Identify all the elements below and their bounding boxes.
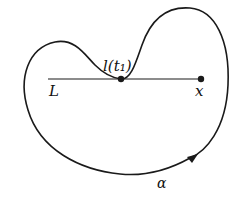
endpoint-label: x (195, 84, 203, 99)
line-label: L (49, 84, 59, 99)
diagram-canvas: l(t₁) L x α (0, 0, 245, 197)
curve-label: α (157, 176, 166, 190)
tangent-point-label: l(t₁) (103, 59, 132, 74)
direction-arrow-icon (187, 154, 198, 163)
tangent-point (118, 76, 124, 82)
curve-diagram-svg (0, 0, 245, 197)
